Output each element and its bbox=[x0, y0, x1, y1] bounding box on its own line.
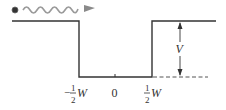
potential-profile bbox=[12, 21, 216, 77]
svg-text:−: − bbox=[64, 86, 70, 98]
svg-text:W: W bbox=[77, 86, 88, 100]
incoming-particle bbox=[12, 5, 95, 13]
svg-text:2: 2 bbox=[145, 95, 150, 105]
height-label: V bbox=[176, 42, 185, 56]
arrow-down-icon bbox=[178, 69, 183, 76]
svg-text:1: 1 bbox=[71, 83, 76, 93]
potential-well-diagram: V − 1 2 W 0 1 2 W bbox=[0, 0, 226, 110]
origin-label: 0 bbox=[112, 86, 118, 100]
particle-dot-icon bbox=[12, 7, 18, 13]
left-edge-label: − 1 2 W bbox=[64, 83, 88, 105]
arrow-up-icon bbox=[178, 22, 183, 29]
svg-text:1: 1 bbox=[145, 83, 150, 93]
right-edge-label: 1 2 W bbox=[144, 83, 162, 105]
wave-icon bbox=[23, 7, 78, 13]
wave-arrowhead-icon bbox=[84, 5, 95, 12]
svg-text:W: W bbox=[151, 86, 162, 100]
potential-line bbox=[12, 21, 216, 77]
svg-text:2: 2 bbox=[71, 95, 76, 105]
